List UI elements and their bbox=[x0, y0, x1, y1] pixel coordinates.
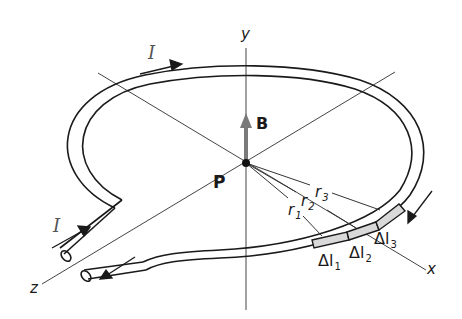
r3-label: r3 bbox=[315, 185, 329, 200]
y-axis-label: y bbox=[241, 27, 250, 42]
field-arrow bbox=[240, 113, 252, 162]
r2-label: r2 bbox=[301, 194, 315, 209]
r1-label: r1 bbox=[288, 203, 302, 218]
z-axis-label: z bbox=[30, 281, 38, 296]
lead-in-end bbox=[59, 249, 73, 263]
r2-line-ext bbox=[327, 210, 356, 228]
r3-line-ext bbox=[332, 193, 380, 210]
current-label-top: I bbox=[148, 44, 155, 62]
point-label: P bbox=[213, 174, 225, 191]
point-p bbox=[242, 159, 250, 167]
lead-out-end bbox=[79, 269, 93, 283]
x-axis-label: x bbox=[427, 262, 436, 277]
wire-leads bbox=[59, 200, 146, 283]
loop-diagram bbox=[0, 0, 462, 319]
axes bbox=[42, 48, 426, 310]
lead-out-bottom bbox=[88, 270, 146, 279]
dl3-label: Δl3 bbox=[374, 231, 397, 247]
dl2-label: Δl2 bbox=[349, 245, 372, 261]
lead-in-bottom bbox=[60, 200, 122, 248]
current-label-lead: I bbox=[53, 217, 60, 235]
r1-line bbox=[246, 163, 288, 198]
lead-in-top bbox=[64, 208, 115, 254]
dl1-label: Δl1 bbox=[318, 253, 341, 269]
diagram-canvas: I I y B P z x r1 r2 r3 Δl1 Δl2 Δl3 bbox=[0, 0, 462, 319]
field-label: B bbox=[256, 116, 268, 132]
lead-out-top bbox=[84, 262, 143, 270]
r1-line-ext bbox=[303, 216, 322, 236]
